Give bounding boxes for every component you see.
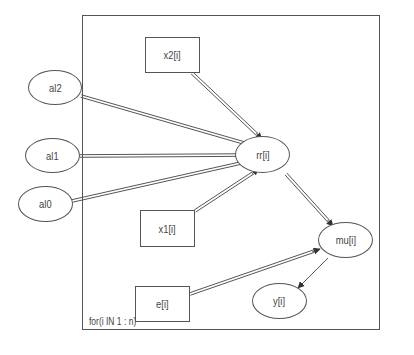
node-label: al2 bbox=[49, 82, 61, 94]
node-label: e[i] bbox=[156, 298, 168, 310]
node-mu[interactable]: mu[i] bbox=[318, 222, 373, 258]
node-y[interactable]: y[i] bbox=[252, 283, 307, 319]
edges-layer bbox=[0, 0, 414, 355]
node-al2[interactable]: al2 bbox=[28, 70, 82, 105]
node-x2[interactable]: x2[i] bbox=[145, 37, 200, 73]
edge-e-to-mu bbox=[190, 249, 320, 295]
edge-rr-to-mu bbox=[285, 173, 333, 226]
edge-al0-to-rr bbox=[72, 161, 250, 202]
node-label: x1[i] bbox=[159, 223, 176, 235]
node-al1[interactable]: al1 bbox=[25, 138, 80, 173]
edge-al1-to-rr bbox=[80, 154, 250, 158]
node-label: mu[i] bbox=[335, 234, 355, 246]
node-label: y[i] bbox=[274, 295, 286, 307]
node-e[interactable]: e[i] bbox=[135, 286, 190, 322]
node-al0[interactable]: al0 bbox=[18, 186, 73, 222]
node-label: al1 bbox=[46, 150, 58, 162]
node-label: x2[i] bbox=[164, 49, 181, 61]
node-label: rr[i] bbox=[256, 149, 270, 161]
edge-x1-to-rr bbox=[194, 169, 259, 212]
node-rr[interactable]: rr[i] bbox=[235, 136, 290, 173]
node-x1[interactable]: x1[i] bbox=[140, 210, 195, 247]
node-label: al0 bbox=[39, 198, 51, 210]
doodle-graph-canvas: for(i IN 1 : n) x2[i]al2al1al0rr[i]x1[i]… bbox=[0, 0, 414, 355]
edge-mu-to-y bbox=[298, 258, 328, 288]
